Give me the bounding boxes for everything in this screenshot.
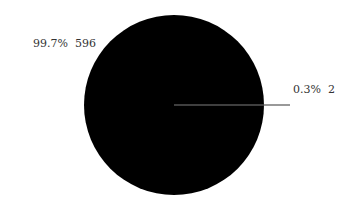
pie-chart: 99.7% 596 0.3% 2 (0, 0, 350, 209)
slice-label-major: 99.7% 596 (33, 37, 96, 50)
slice-label-minor: 0.3% 2 (293, 83, 335, 96)
